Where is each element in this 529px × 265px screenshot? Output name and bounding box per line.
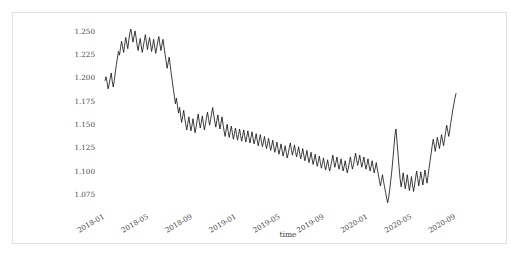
y-tick-label: 1.100 [74,167,95,176]
y-tick-label: 1.125 [74,143,95,152]
x-tick-label: 2018-01 [76,212,106,235]
x-tick-label: 2019-05 [251,212,282,235]
y-tick-label: 1.250 [74,27,95,36]
x-tick-label: 2020-09 [427,212,458,235]
y-tick-label: 1.075 [74,190,95,199]
x-tick-label: 2018-05 [120,212,151,235]
x-tick-label: 2019-01 [207,212,237,235]
chart-figure-frame: 1.0751.1001.1251.1501.1751.2001.2251.250… [12,12,507,244]
y-tick-label: 1.175 [74,97,95,106]
x-tick-label: 2020-05 [383,212,414,235]
exchange-rate-line [105,29,456,203]
x-tick-label: 2020-01 [339,212,369,235]
x-axis-title: time [279,230,297,239]
x-tick-label: 2018-09 [163,212,194,235]
y-tick-label: 1.150 [74,120,95,129]
y-tick-label: 1.200 [74,73,95,82]
x-tick-label: 2019-09 [295,212,326,235]
y-tick-label: 1.225 [74,50,95,59]
timeseries-line-chart: 1.0751.1001.1251.1501.1751.2001.2251.250… [13,13,506,243]
x-axis-tick-labels: 2018-012018-052018-092019-012019-052019-… [76,212,458,235]
y-axis-tick-labels: 1.0751.1001.1251.1501.1751.2001.2251.250 [74,27,95,199]
